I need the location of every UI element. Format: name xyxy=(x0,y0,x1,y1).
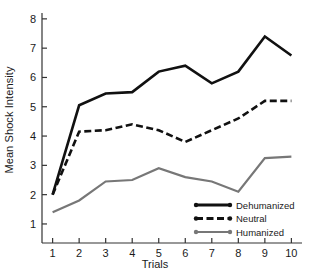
line-chart-plot: 12345678 12345678910 DehumanizedNeutralH… xyxy=(0,0,310,279)
y-axis-ticks: 12345678 xyxy=(30,13,47,230)
y-tick-label: 5 xyxy=(30,101,36,113)
legend-label-dehumanized: Dehumanized xyxy=(236,200,295,211)
y-tick-label: 3 xyxy=(30,159,36,171)
y-tick-label: 8 xyxy=(30,13,36,25)
chart-figure: Mean Shock Intensity 12345678 1234567891… xyxy=(0,0,310,279)
y-tick-label: 4 xyxy=(30,130,36,142)
chart-legend: DehumanizedNeutralHumanized xyxy=(194,200,295,238)
y-tick-label: 1 xyxy=(30,218,36,230)
y-tick-label: 7 xyxy=(30,42,36,54)
x-axis-label: Trials xyxy=(0,258,310,270)
y-tick-label: 6 xyxy=(30,71,36,83)
y-tick-label: 2 xyxy=(30,189,36,201)
data-series-layer xyxy=(53,36,292,212)
series-line-neutral xyxy=(53,101,292,195)
x-axis-label-text: Trials xyxy=(142,258,168,270)
legend-label-humanized: Humanized xyxy=(236,227,284,238)
x-axis-ticks: 12345678910 xyxy=(50,238,298,259)
legend-label-neutral: Neutral xyxy=(236,213,267,224)
